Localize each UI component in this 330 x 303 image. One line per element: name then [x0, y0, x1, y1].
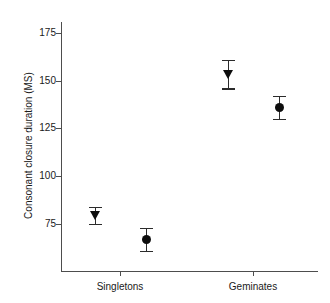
- error-bar-cap-upper: [273, 96, 286, 97]
- y-tick-label: 125: [22, 123, 56, 133]
- error-bar-cap-lower: [140, 251, 153, 252]
- y-tick-mark: [56, 176, 61, 177]
- y-tick-mark: [56, 224, 61, 225]
- x-axis-line: [61, 271, 318, 272]
- y-tick-mark: [56, 81, 61, 82]
- error-bar-cap-upper: [140, 228, 153, 229]
- y-tick-label: 150: [22, 76, 56, 86]
- x-tick-mark: [120, 271, 121, 276]
- y-tick-label: 100: [22, 171, 56, 181]
- x-tick-label-singletons: Singletons: [75, 281, 165, 293]
- error-bar-cap-upper: [89, 207, 102, 208]
- y-tick-label-wrap: 75: [0, 219, 56, 229]
- y-tick-label-wrap: 100: [0, 171, 56, 181]
- y-tick-label-wrap: 125: [0, 123, 56, 133]
- error-bar-cap-lower: [89, 224, 102, 225]
- x-tick-mark: [253, 271, 254, 276]
- y-tick-label-wrap: 150: [0, 76, 56, 86]
- marker-triangle-down-icon: [90, 211, 100, 220]
- marker-circle-icon: [142, 235, 151, 244]
- y-tick-mark: [56, 33, 61, 34]
- error-bar-cap-upper: [222, 60, 235, 61]
- y-tick-label-wrap: 175: [0, 28, 56, 38]
- chart-figure: Consonant closure duration (MS) 17515012…: [0, 0, 330, 303]
- x-tick-label-geminates: Geminates: [208, 281, 298, 293]
- marker-circle-icon: [275, 103, 284, 112]
- error-bar-cap-lower: [273, 119, 286, 120]
- error-bar-cap-lower: [222, 88, 235, 89]
- y-tick-label: 175: [22, 28, 56, 38]
- y-tick-mark: [56, 128, 61, 129]
- y-tick-label: 75: [22, 219, 56, 229]
- y-axis-line: [61, 22, 62, 272]
- marker-triangle-down-icon: [223, 70, 233, 79]
